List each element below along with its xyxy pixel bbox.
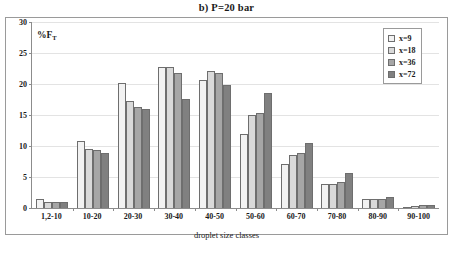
bar-group <box>276 22 317 208</box>
chart-figure: b) P=20 bar %FT 051015202530 1,2-1010-20… <box>0 0 453 258</box>
bar <box>199 80 207 208</box>
bar <box>126 101 134 208</box>
x-tick-label: 1,2-10 <box>31 212 72 221</box>
x-tick-label: 50-60 <box>235 212 276 221</box>
legend-swatch-icon <box>388 35 395 42</box>
bar <box>264 93 272 208</box>
x-tick-label: 30-40 <box>153 212 194 221</box>
bar <box>403 207 411 208</box>
x-tick-label: 40-50 <box>194 212 235 221</box>
bar <box>321 184 329 208</box>
bar <box>158 67 166 208</box>
bar <box>411 206 419 208</box>
chart-legend: x=9x=18x=36x=72 <box>383 28 422 84</box>
y-tick-mark <box>29 208 32 209</box>
bar <box>248 115 256 208</box>
x-tick-label: 10-20 <box>72 212 113 221</box>
bar <box>419 205 427 208</box>
legend-label: x=18 <box>399 46 416 55</box>
bar-groups <box>32 22 439 208</box>
bar <box>281 164 289 208</box>
x-tick-label: 70-80 <box>317 212 358 221</box>
x-tick-mark <box>236 208 237 211</box>
bar <box>182 99 190 208</box>
x-tick-mark <box>154 208 155 211</box>
x-tick-mark <box>73 208 74 211</box>
bar <box>223 85 231 208</box>
bar <box>362 199 370 208</box>
bar-group <box>113 22 154 208</box>
legend-label: x=36 <box>399 58 416 67</box>
legend-swatch-icon <box>388 47 395 54</box>
bar-group <box>32 22 73 208</box>
chart-title: b) P=20 bar <box>0 2 453 13</box>
bar <box>305 143 313 208</box>
x-tick-mark <box>113 208 114 211</box>
bar <box>289 155 297 208</box>
bar-group <box>195 22 236 208</box>
bar-group <box>73 22 114 208</box>
x-tick-mark <box>358 208 359 211</box>
bar <box>427 205 435 208</box>
legend-swatch-icon <box>388 59 395 66</box>
x-axis-labels: 1,2-1010-2020-3030-4040-5050-6060-7070-8… <box>31 212 439 221</box>
plot-area: 051015202530 <box>31 22 439 209</box>
bar <box>297 153 305 208</box>
legend-label: x=72 <box>399 70 416 79</box>
bar <box>52 202 60 208</box>
bar <box>134 107 142 208</box>
bar <box>85 149 93 208</box>
y-tick-label: 10 <box>19 142 27 151</box>
x-axis-title: droplet size classes <box>0 230 453 240</box>
x-tick-label: 80-90 <box>357 212 398 221</box>
x-tick-mark <box>195 208 196 211</box>
bar <box>60 202 68 208</box>
x-tick-label: 90-100 <box>398 212 439 221</box>
bar-group <box>154 22 195 208</box>
bar <box>118 83 126 208</box>
y-tick-label: 15 <box>19 111 27 120</box>
bar-group <box>317 22 358 208</box>
bar <box>378 199 386 208</box>
bar <box>329 184 337 208</box>
legend-swatch-icon <box>388 71 395 78</box>
bar <box>93 150 101 208</box>
y-tick-label: 0 <box>23 204 27 213</box>
y-tick-label: 25 <box>19 49 27 58</box>
bar <box>207 71 215 208</box>
bar <box>166 67 174 208</box>
bar-group <box>236 22 277 208</box>
bar <box>256 113 264 208</box>
bar <box>101 153 109 208</box>
bar <box>44 202 52 208</box>
legend-item[interactable]: x=36 <box>388 56 416 68</box>
legend-label: x=9 <box>399 34 412 43</box>
bar <box>36 199 44 208</box>
y-tick-label: 5 <box>23 173 27 182</box>
legend-item[interactable]: x=18 <box>388 44 416 56</box>
bar <box>215 73 223 208</box>
y-tick-label: 30 <box>19 18 27 27</box>
bar <box>174 73 182 208</box>
x-tick-label: 60-70 <box>276 212 317 221</box>
bar <box>77 141 85 208</box>
bar <box>240 134 248 208</box>
y-tick-label: 20 <box>19 80 27 89</box>
bar <box>337 182 345 208</box>
x-tick-mark <box>398 208 399 211</box>
legend-item[interactable]: x=72 <box>388 68 416 80</box>
x-tick-mark <box>317 208 318 211</box>
bar <box>142 109 150 208</box>
x-tick-label: 20-30 <box>113 212 154 221</box>
x-tick-mark <box>276 208 277 211</box>
bar <box>370 199 378 208</box>
bar <box>386 197 394 208</box>
legend-item[interactable]: x=9 <box>388 32 416 44</box>
bar <box>345 173 353 208</box>
